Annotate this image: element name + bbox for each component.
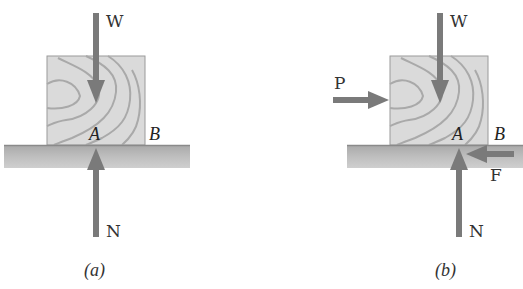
weight-label: W bbox=[106, 11, 124, 31]
point-b-label: B bbox=[494, 124, 505, 144]
panel-a: W N A B (a) bbox=[4, 11, 190, 281]
normal-label: N bbox=[469, 221, 484, 241]
weight-label: W bbox=[450, 11, 468, 31]
point-a-label: A bbox=[451, 124, 464, 144]
point-b-label: B bbox=[149, 124, 160, 144]
point-a-label: A bbox=[88, 124, 101, 144]
caption-a: (a) bbox=[84, 260, 105, 281]
push-label: P bbox=[334, 73, 345, 93]
normal-label: N bbox=[106, 221, 121, 241]
caption-b: (b) bbox=[435, 260, 456, 281]
push-force-arrow-icon bbox=[333, 91, 389, 109]
panel-b: W P N F A B (b) bbox=[333, 11, 523, 281]
friction-label: F bbox=[490, 165, 502, 185]
free-body-diagram: W N A B (a) bbox=[0, 0, 523, 289]
